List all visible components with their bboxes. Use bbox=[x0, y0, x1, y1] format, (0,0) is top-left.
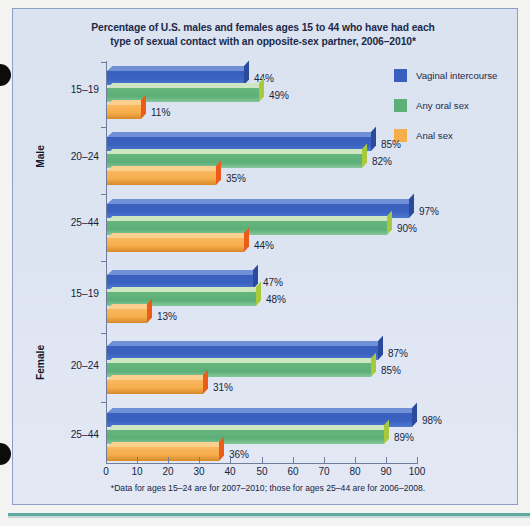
bar-value-label: 82% bbox=[372, 156, 392, 167]
y-axis-group-tick bbox=[101, 333, 107, 334]
bar-value-label: 13% bbox=[157, 311, 177, 322]
bar-male-15-19-anal-sex bbox=[107, 105, 141, 119]
bar-female-20-24-anal-sex bbox=[107, 380, 203, 394]
x-axis-tick bbox=[355, 457, 356, 464]
bar-front-face bbox=[107, 105, 141, 119]
x-axis-tick bbox=[137, 457, 138, 464]
bar-end-face bbox=[387, 211, 392, 235]
bar-value-label: 48% bbox=[266, 294, 286, 305]
bar-end-face bbox=[259, 78, 264, 102]
x-axis-tick bbox=[386, 457, 387, 464]
bar-end-face bbox=[384, 420, 389, 444]
sex-group-label-male: Male bbox=[35, 127, 46, 187]
page-hole-punch-top bbox=[0, 64, 11, 86]
bar-value-label: 85% bbox=[381, 365, 401, 376]
x-axis-tick bbox=[262, 457, 263, 464]
y-axis-group-tick bbox=[101, 194, 107, 195]
legend-label: Any oral sex bbox=[416, 100, 469, 111]
figure-title-line-1: Percentage of U.S. males and females age… bbox=[53, 21, 473, 35]
bar-front-face bbox=[107, 309, 147, 323]
y-axis-group-tick bbox=[101, 261, 107, 262]
bar-value-label: 44% bbox=[254, 240, 274, 251]
bar-end-face bbox=[371, 127, 376, 151]
x-axis-tick bbox=[230, 457, 231, 464]
bar-end-face bbox=[141, 95, 146, 119]
legend-label: Vaginal intercourse bbox=[416, 70, 497, 81]
bar-female-25-44-anal-sex bbox=[107, 447, 219, 461]
x-axis-tick-label: 100 bbox=[409, 466, 426, 477]
bar-value-label: 89% bbox=[394, 432, 414, 443]
bar-value-label: 98% bbox=[422, 415, 442, 426]
figure-title-line-2: type of sexual contact with an opposite-… bbox=[53, 35, 473, 49]
bar-front-face bbox=[107, 447, 219, 461]
y-axis-group-tick bbox=[101, 127, 107, 128]
x-axis-tick-label: 60 bbox=[287, 466, 298, 477]
bar-end-face bbox=[378, 336, 383, 360]
page-hole-punch-bottom bbox=[0, 443, 11, 465]
bar-end-face bbox=[244, 61, 249, 85]
bar-value-label: 87% bbox=[388, 348, 408, 359]
bar-end-face bbox=[216, 161, 221, 185]
figure-panel: Percentage of U.S. males and females age… bbox=[12, 8, 518, 505]
bar-value-label: 90% bbox=[397, 223, 417, 234]
bar-male-20-24-anal-sex bbox=[107, 171, 216, 185]
bar-end-face bbox=[256, 282, 261, 306]
bar-male-25-44-anal-sex bbox=[107, 238, 244, 252]
bar-female-15-19-anal-sex bbox=[107, 309, 147, 323]
age-group-label-male-20-24: 20–24 bbox=[39, 151, 99, 162]
sex-group-label-female: Female bbox=[35, 333, 46, 393]
bar-front-face bbox=[107, 171, 216, 185]
bar-end-face bbox=[362, 144, 367, 168]
bar-end-face bbox=[412, 403, 417, 427]
bar-front-face bbox=[107, 380, 203, 394]
bar-end-face bbox=[371, 353, 376, 377]
x-axis-tick bbox=[168, 457, 169, 464]
bar-end-face bbox=[147, 299, 152, 323]
bar-value-label: 85% bbox=[381, 139, 401, 150]
age-group-label-female-15-19: 15–19 bbox=[39, 288, 99, 299]
x-axis-tick-label: 40 bbox=[224, 466, 235, 477]
bar-value-label: 47% bbox=[263, 277, 283, 288]
x-axis-tick bbox=[106, 457, 107, 464]
figure-title: Percentage of U.S. males and females age… bbox=[53, 21, 473, 49]
x-axis-tick-label: 90 bbox=[380, 466, 391, 477]
scanned-page: Percentage of U.S. males and females age… bbox=[0, 0, 530, 526]
bar-value-label: 97% bbox=[419, 206, 439, 217]
bar-value-label: 35% bbox=[226, 173, 246, 184]
x-axis-tick-label: 10 bbox=[131, 466, 142, 477]
x-axis-tick bbox=[324, 457, 325, 464]
bar-value-label: 36% bbox=[229, 449, 249, 460]
age-group-label-male-15-19: 15–19 bbox=[39, 84, 99, 95]
x-axis-tick bbox=[293, 457, 294, 464]
age-group-label-female-25-44: 25–44 bbox=[39, 429, 99, 440]
x-axis-tick-label: 80 bbox=[349, 466, 360, 477]
bar-end-face bbox=[203, 370, 208, 394]
y-axis-group-tick bbox=[101, 62, 107, 63]
bar-end-face bbox=[409, 194, 414, 218]
bar-value-label: 49% bbox=[269, 90, 289, 101]
figure-footnote: *Data for ages 15–24 are for 2007–2010; … bbox=[53, 483, 483, 493]
x-axis-tick bbox=[199, 457, 200, 464]
x-axis-tick bbox=[417, 457, 418, 464]
bar-front-face bbox=[107, 238, 244, 252]
bar-value-label: 31% bbox=[213, 382, 233, 393]
age-group-label-female-20-24: 20–24 bbox=[39, 360, 99, 371]
legend-label: Anal sex bbox=[416, 130, 453, 141]
age-group-label-male-25-44: 25–44 bbox=[39, 217, 99, 228]
bar-value-label: 11% bbox=[151, 107, 170, 118]
x-axis-tick-label: 30 bbox=[193, 466, 204, 477]
x-axis-tick-label: 0 bbox=[103, 466, 109, 477]
plot-area: 44% 49% 11% 85% bbox=[106, 61, 417, 463]
x-axis-tick-label: 70 bbox=[318, 466, 329, 477]
x-axis-tick-label: 20 bbox=[162, 466, 173, 477]
page-bottom-rule-secondary bbox=[8, 516, 530, 518]
bar-end-face bbox=[219, 437, 224, 461]
y-axis-group-tick bbox=[101, 402, 107, 403]
bar-end-face bbox=[244, 228, 249, 252]
x-axis-tick-label: 50 bbox=[256, 466, 267, 477]
